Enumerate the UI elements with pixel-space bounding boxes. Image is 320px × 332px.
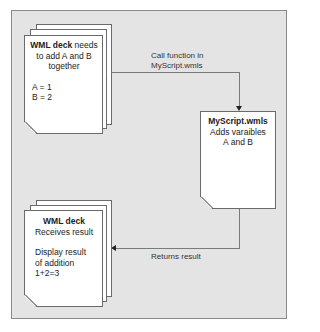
value-b: B = 2 <box>32 92 102 103</box>
wml-deck-result-text: WML deck Receives result Display result … <box>26 216 102 279</box>
node-line: 1+2=3 <box>35 268 102 279</box>
folded-corner-icon <box>24 122 36 134</box>
node-title: MyScript.wmls <box>208 116 268 126</box>
myscript-text: MyScript.wmls Adds varaibles A and B <box>200 116 276 148</box>
node-title: WML deck <box>30 40 72 50</box>
call-edge-horizontal <box>111 72 240 73</box>
return-edge-vertical <box>239 209 240 249</box>
node-line: Adds varaibles <box>200 127 276 138</box>
node-title: WML deck <box>43 216 85 226</box>
node-line: of addition <box>35 258 102 269</box>
return-edge-label: Returns result <box>151 252 201 262</box>
value-a: A = 1 <box>32 82 102 93</box>
wml-deck-start-text: WML deck needs to add A and B together A… <box>26 40 102 103</box>
node-line: Display result <box>35 247 102 258</box>
node-line: together <box>26 61 102 72</box>
call-edge-vertical <box>239 72 240 108</box>
folded-corner-icon <box>24 295 36 307</box>
call-edge-label-line2: MyScript.wmls <box>151 61 203 71</box>
return-edge-horizontal <box>113 248 240 249</box>
call-edge-label: Call function in MyScript.wmls <box>151 51 203 71</box>
call-edge-label-line1: Call function in <box>151 51 203 61</box>
folded-corner-icon <box>200 197 212 209</box>
node-title-suffix: needs <box>72 40 98 50</box>
node-line: A and B <box>200 137 276 148</box>
arrowhead-down-icon <box>236 106 242 111</box>
node-line: to add A and B <box>26 51 102 62</box>
node-subtitle: Receives result <box>26 227 102 238</box>
